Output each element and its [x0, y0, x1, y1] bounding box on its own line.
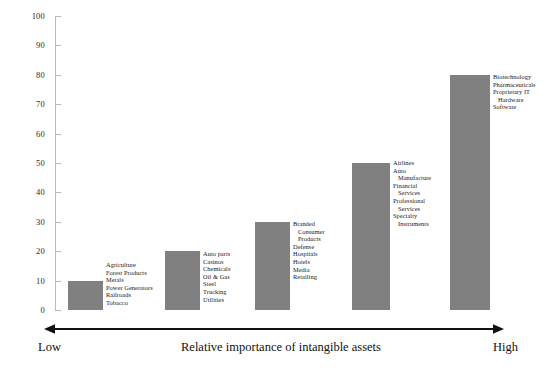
bar-label-item: Tobacco	[106, 299, 153, 307]
bar-label-item: Casinos	[203, 258, 230, 266]
bar-label-group: BrandedConsumerProductsDefenseHospitalsH…	[293, 220, 325, 281]
bar-label-item: Retailing	[293, 273, 325, 281]
bar-label-item: Auto	[393, 167, 431, 175]
bar-label-item: Trucking	[203, 288, 230, 296]
bar-label-item: Instruments	[393, 220, 431, 228]
bar-label-group: BiotechnologyPharmaceuticalsProprietary …	[493, 73, 536, 111]
bar-label-item: Manufacture	[393, 174, 431, 182]
bar-label-item: Hardware	[493, 96, 536, 104]
bar-label-item: Oil & Gas	[203, 273, 230, 281]
bar-label-item: Steel	[203, 280, 230, 288]
bar	[68, 281, 103, 310]
bar	[165, 251, 200, 310]
bar-label-item: Defense	[293, 243, 325, 251]
bar-label-item: Biotechnology	[493, 73, 536, 81]
bar-label-item: Products	[293, 235, 325, 243]
bar-label-item: Media	[293, 266, 325, 274]
bar-label-item: Professional	[393, 197, 431, 205]
bar-label-item: Power Generators	[106, 284, 153, 292]
bar	[450, 75, 490, 310]
bar-label-item: Auto parts	[203, 250, 230, 258]
bar-label-group: AirlinesAutoManufactureFinancialServices…	[393, 159, 431, 227]
bar-label-item: Airlines	[393, 159, 431, 167]
bar-label-item: Railroads	[106, 291, 153, 299]
bar-label-item: Consumer	[293, 228, 325, 236]
bar-label-item: Utilities	[203, 296, 230, 304]
axis-label-center: Relative importance of intangible assets	[0, 340, 548, 354]
bar	[255, 222, 290, 310]
bar-label-item: Pharmaceuticals	[493, 81, 536, 89]
double-arrow-icon	[44, 322, 504, 336]
bar-label-item: Forest Products	[106, 269, 153, 277]
bar-label-item: Chemicals	[203, 265, 230, 273]
bar-label-item: Hospitals	[293, 250, 325, 258]
bar-chart: 0102030405060708090100 AgricultureForest…	[0, 0, 548, 378]
bar-label-item: Specialty	[393, 212, 431, 220]
bar-label-item: Services	[393, 189, 431, 197]
bar-label-item: Proprietary IT	[493, 88, 536, 96]
bar-label-item: Branded	[293, 220, 325, 228]
bar	[352, 163, 390, 310]
bar-label-item: Hotels	[293, 258, 325, 266]
bar-label-item: Metals	[106, 276, 153, 284]
importance-arrow-axis	[44, 322, 504, 336]
bar-label-item: Agriculture	[106, 261, 153, 269]
bar-label-item: Financial	[393, 182, 431, 190]
bar-label-item: Software	[493, 103, 536, 111]
axis-label-high: High	[493, 340, 518, 354]
bar-label-item: Services	[393, 205, 431, 213]
bar-label-group: AgricultureForest ProductsMetalsPower Ge…	[106, 261, 153, 307]
bar-label-group: Auto partsCasinosChemicalsOil & GasSteel…	[203, 250, 230, 303]
